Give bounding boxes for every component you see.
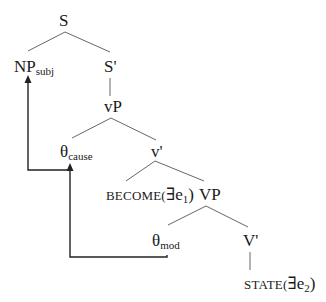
node-s-bar: S' [104, 58, 117, 75]
node-s: S [59, 12, 68, 29]
node-theta-cause: θcause [60, 143, 93, 162]
edge-vp-vbar [111, 118, 156, 140]
edge-vp-thetacause [72, 118, 111, 138]
arrowhead-icon [67, 163, 74, 171]
edge-vbar-become [126, 161, 155, 181]
node-v-bar: v' [151, 143, 163, 160]
node-theta-mod: θmod [152, 232, 180, 251]
node-vp-little: vP [104, 98, 122, 115]
edge-vbar-vpbig [155, 161, 204, 181]
edge-vpbig-thetamod [168, 206, 206, 225]
node-np-subj: NPsubj [14, 58, 54, 77]
node-v-bar-big: V' [243, 232, 258, 249]
edge-s-npsubj [28, 32, 65, 51]
node-vp-big: VP [199, 186, 221, 203]
node-state: STATE(∃e2) [244, 275, 315, 294]
tree-diagram [0, 0, 326, 302]
edge-vpbig-vbarbig [206, 206, 248, 227]
edge-s-sbar [65, 32, 110, 52]
node-become: BECOME(∃e1) [106, 186, 194, 205]
